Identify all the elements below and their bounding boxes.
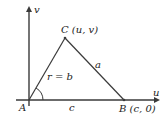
vertex-c-coords: (u, v): [72, 24, 98, 35]
vertex-b-coords: (c, 0): [130, 103, 156, 114]
triangle-diagram: v u A C (u, v) B (c, 0) r = b a c: [0, 0, 162, 119]
side-bc-label: a: [95, 59, 101, 70]
vertex-c-label: C (u, v): [61, 24, 98, 35]
u-axis-label: u: [153, 87, 159, 98]
vertex-b-label: B (c, 0): [118, 103, 156, 114]
vertex-b-dot: [123, 99, 126, 102]
side-ac: [29, 38, 65, 100]
vertex-a-label: A: [18, 102, 26, 113]
v-axis-label: v: [34, 4, 40, 15]
vertex-c-dot: [64, 37, 67, 40]
side-ab-label: c: [69, 102, 75, 113]
angle-arc-a: [36, 88, 43, 100]
side-ac-label: r = b: [47, 71, 73, 82]
